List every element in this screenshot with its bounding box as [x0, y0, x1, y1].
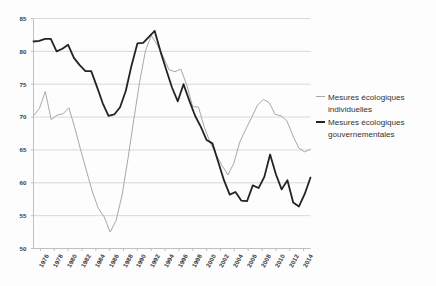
- y-tick-label: 70: [7, 113, 27, 120]
- legend-label-gouvernementales: Mesures écologiques gouvernementales: [328, 117, 404, 140]
- plot-area: 8580757065605550 19761978198019821984198…: [0, 0, 320, 286]
- series-paths-group: [34, 31, 311, 232]
- legend-item-individuelles: Mesures écologiques individuelles: [316, 92, 436, 115]
- gridlines-group: [31, 19, 311, 249]
- axis-lines-group: [34, 19, 311, 249]
- chart-legend: Mesures écologiques individuelles Mesure…: [316, 92, 436, 142]
- chart-svg: [0, 0, 320, 286]
- series-line-individuelles: [34, 36, 311, 232]
- chart-container: 8580757065605550 19761978198019821984198…: [0, 0, 436, 286]
- series-line-gouvernementales: [34, 31, 311, 206]
- legend-label-line1: Mesures écologiques: [328, 118, 404, 127]
- legend-label-line2: individuelles: [328, 105, 372, 114]
- legend-label-line2: gouvernementales: [328, 130, 395, 139]
- y-tick-label: 65: [7, 146, 27, 153]
- y-tick-label: 75: [7, 81, 27, 88]
- y-tick-label: 85: [7, 15, 27, 22]
- y-tick-label: 80: [7, 48, 27, 55]
- legend-line-icon-gray: [316, 96, 325, 97]
- y-tick-label: 60: [7, 179, 27, 186]
- legend-line-icon-black: [316, 121, 325, 123]
- legend-item-gouvernementales: Mesures écologiques gouvernementales: [316, 117, 436, 140]
- y-tick-label: 55: [7, 212, 27, 219]
- legend-label-individuelles: Mesures écologiques individuelles: [328, 92, 404, 115]
- y-tick-label: 50: [7, 245, 27, 252]
- legend-label-line1: Mesures écologiques: [328, 93, 404, 102]
